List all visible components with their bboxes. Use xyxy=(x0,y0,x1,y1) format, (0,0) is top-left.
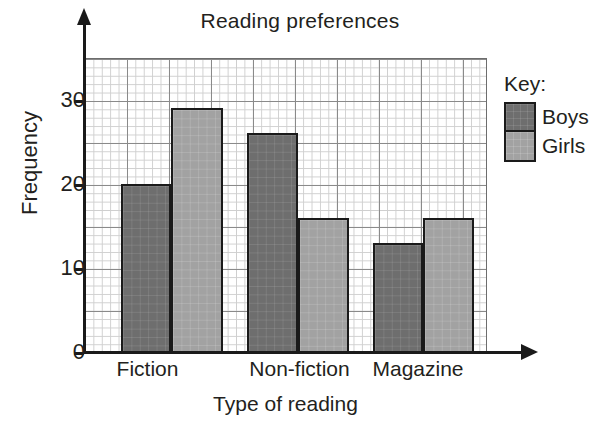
x-axis-line xyxy=(83,351,523,354)
x-axis-title: Type of reading xyxy=(85,392,486,416)
bar-chart-figure: Reading preferences 30 20 10 0 Frequenc xyxy=(0,0,597,435)
y-axis-title: Frequency xyxy=(17,63,43,263)
x-axis-arrow-icon xyxy=(521,344,538,360)
bar-magazine-boys xyxy=(373,243,423,354)
legend-swatch-girls xyxy=(506,132,534,160)
bar-magazine-girls xyxy=(423,218,474,354)
bar-non-fiction-girls xyxy=(298,218,349,354)
chart-title: Reading preferences xyxy=(150,9,450,33)
legend: Key: Boys Girls xyxy=(498,72,597,164)
legend-label-girls: Girls xyxy=(542,134,585,158)
legend-swatch xyxy=(504,102,536,162)
category-label-non-fiction: Non-fiction xyxy=(232,357,367,381)
bar-non-fiction-boys xyxy=(247,133,298,354)
category-label-fiction: Fiction xyxy=(105,357,190,381)
bar-fiction-girls xyxy=(171,108,223,354)
legend-entries: Boys Girls xyxy=(498,102,597,164)
bar-fiction-boys xyxy=(121,184,171,354)
category-label-magazine: Magazine xyxy=(358,357,478,381)
legend-title: Key: xyxy=(504,72,597,96)
legend-swatch-boys xyxy=(506,104,534,132)
legend-label-boys: Boys xyxy=(542,105,589,129)
y-tick-label-0: 0 xyxy=(29,339,85,365)
